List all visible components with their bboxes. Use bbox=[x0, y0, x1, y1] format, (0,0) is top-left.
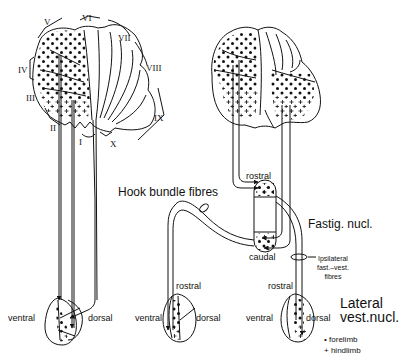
legend-hindlimb: + hindlimb bbox=[324, 345, 361, 356]
ipsilateral-line-1: Ipsilateral bbox=[317, 254, 349, 263]
left-cerebellum bbox=[30, 16, 164, 140]
lobule-label-v: V bbox=[44, 18, 51, 27]
legend-forelimb: • forelimb bbox=[324, 334, 361, 345]
lobule-label-vii: VII bbox=[118, 34, 131, 43]
lower-right-dorsal-label: dorsal bbox=[306, 314, 331, 323]
lower-left-rostral-label: rostral bbox=[176, 282, 201, 291]
right-cerebellum bbox=[212, 27, 321, 128]
forelimb-dot-icon: • bbox=[324, 335, 327, 344]
lower-right-ventral-label: ventral bbox=[246, 314, 273, 323]
lateral-vest-line-2: vest.nucl. bbox=[340, 310, 399, 324]
lobule-label-vi: VI bbox=[82, 14, 92, 23]
lobule-label-viii: VIII bbox=[146, 64, 162, 73]
hindlimb-plus-icon: + bbox=[324, 346, 329, 355]
lateral-vest-nucl-label: Lateral vest.nucl. bbox=[340, 296, 399, 324]
hindlimb-label: hindlimb bbox=[331, 346, 361, 355]
left-dorsal-label: dorsal bbox=[88, 314, 113, 323]
fastigial-nucleus bbox=[254, 180, 276, 252]
lobule-label-i: I bbox=[79, 138, 82, 147]
left-lateral-vestibular-nucleus bbox=[45, 298, 82, 345]
ipsilateral-line-3: fibres bbox=[317, 272, 349, 281]
lower-left-ventral-label: ventral bbox=[135, 314, 162, 323]
lower-left-dorsal-label: dorsal bbox=[196, 314, 221, 323]
lobule-label-iv: IV bbox=[18, 66, 28, 75]
hook-bundle-label: Hook bundle fibres bbox=[118, 186, 218, 198]
forelimb-label: forelimb bbox=[329, 335, 357, 344]
left-ventral-label: ventral bbox=[8, 314, 35, 323]
lobule-label-ix: IX bbox=[154, 114, 164, 123]
hook-bundle-fibres bbox=[168, 201, 254, 330]
lobule-label-iii: III bbox=[26, 94, 35, 103]
fastigial-caudal-label: caudal bbox=[249, 253, 276, 262]
lower-right-rostral-label: rostral bbox=[268, 282, 293, 291]
fastigial-rostral-label: rostral bbox=[246, 172, 271, 181]
legend: • forelimb + hindlimb bbox=[324, 334, 361, 356]
lobule-label-ii: II bbox=[50, 124, 56, 133]
fastigial-nucleus-label: Fastig. nucl. bbox=[308, 218, 373, 230]
ipsilateral-fibres-label: Ipsilateral fast.–vest. fibres bbox=[317, 254, 349, 281]
ipsilateral-line-2: fast.–vest. bbox=[317, 263, 349, 272]
lobule-label-x: X bbox=[110, 140, 117, 149]
lateral-vest-line-1: Lateral bbox=[340, 296, 399, 310]
